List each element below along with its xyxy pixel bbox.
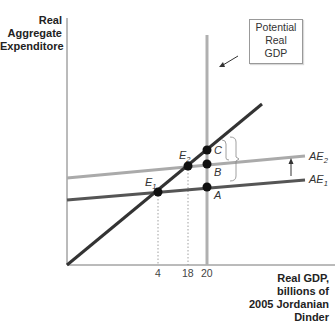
label-e2: E2 — [179, 149, 191, 164]
x-tick-20: 20 — [201, 267, 213, 279]
potential-gdp-box-line: Potential — [250, 21, 302, 34]
label-ae2: AE2 — [308, 150, 329, 165]
forty-five-degree-line — [67, 104, 262, 265]
ae1-line — [67, 180, 305, 200]
label-e1: E1 — [145, 176, 157, 191]
x-tick-18: 18 — [182, 267, 194, 279]
bracket-bc — [222, 140, 229, 160]
potential-gdp-box: Potential Real GDP — [249, 19, 303, 64]
potential-gdp-arrow — [223, 56, 238, 65]
x-tick-4: 4 — [155, 267, 161, 279]
potential-gdp-box-line: GDP — [250, 47, 302, 60]
bracket-ab — [230, 137, 239, 181]
point-a — [203, 183, 212, 192]
label-c: C — [214, 144, 222, 156]
point-c — [203, 146, 212, 155]
potential-gdp-box-line: Real — [250, 34, 302, 47]
label-ae1: AE1 — [308, 173, 328, 188]
point-b — [203, 160, 212, 169]
label-a: A — [213, 189, 221, 201]
label-b: B — [214, 166, 221, 178]
